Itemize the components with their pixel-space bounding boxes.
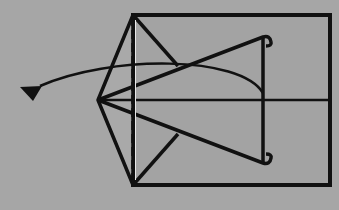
diagram-svg [0, 0, 339, 210]
origami-diagram [0, 0, 339, 210]
